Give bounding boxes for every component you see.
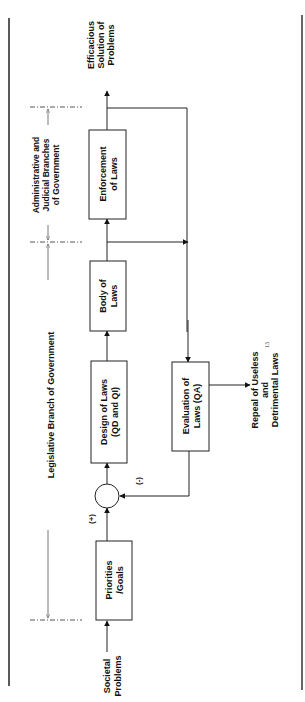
design-of-laws-label: Design of Laws (QD and QI) bbox=[99, 379, 120, 445]
evaluation-of-laws-label: Evaluation of Laws (QA) bbox=[181, 377, 202, 435]
svg-text:Design of Laws: Design of Laws bbox=[99, 379, 109, 445]
svg-text:(+): (+) bbox=[87, 514, 96, 524]
plus-sign: (+) bbox=[87, 514, 96, 524]
svg-text:Evaluation of: Evaluation of bbox=[181, 377, 191, 435]
minus-sign: (-) bbox=[134, 477, 143, 485]
svg-text:(QD and QI): (QD and QI) bbox=[110, 387, 120, 437]
law-system-diagram: Administrative and Judicial Branches of … bbox=[0, 0, 305, 702]
administrative-branch-label: Administrative and Judicial Branches of … bbox=[31, 137, 61, 214]
svg-text:Laws (QA): Laws (QA) bbox=[192, 384, 202, 429]
svg-text:of Laws: of Laws bbox=[109, 157, 119, 191]
svg-text:and: and bbox=[260, 382, 270, 398]
priorities-goals-label: Priorities /Goals bbox=[104, 560, 125, 599]
svg-text:Priorities: Priorities bbox=[104, 560, 114, 599]
svg-text:Societal: Societal bbox=[102, 659, 112, 694]
societal-problems-label: Societal Problems bbox=[102, 655, 123, 696]
svg-text:Repeal of Useless: Repeal of Useless bbox=[250, 351, 260, 428]
svg-text:13: 13 bbox=[264, 342, 270, 348]
svg-text:Solution of: Solution of bbox=[96, 21, 106, 69]
svg-text:Administrative and: Administrative and bbox=[31, 137, 41, 214]
priorities-goals-box bbox=[96, 541, 132, 620]
svg-text:Problems: Problems bbox=[106, 24, 116, 65]
svg-text:Enforcement: Enforcement bbox=[98, 146, 108, 201]
svg-text:Efficacious: Efficacious bbox=[86, 21, 96, 69]
svg-text:Problems: Problems bbox=[113, 655, 123, 696]
legislative-branch-label: Legislative Branch of Government bbox=[46, 332, 56, 479]
svg-text:Judicial Branches: Judicial Branches bbox=[41, 138, 51, 211]
svg-text:of Government: of Government bbox=[51, 145, 61, 206]
repeal-label: Repeal of Useless and Detrimental Laws bbox=[250, 351, 280, 428]
svg-text:/Goals: /Goals bbox=[115, 566, 125, 594]
repeal-footnote: 13 bbox=[264, 342, 270, 348]
feedback-line-evaluation bbox=[120, 451, 189, 496]
svg-text:Laws: Laws bbox=[109, 285, 119, 308]
body-of-laws-box bbox=[90, 261, 126, 331]
design-of-laws-box bbox=[91, 361, 127, 463]
svg-text:Legislative Branch of Governme: Legislative Branch of Government bbox=[46, 332, 56, 479]
summing-junction bbox=[95, 484, 119, 508]
efficacious-solution-label: Efficacious Solution of Problems bbox=[86, 21, 116, 69]
svg-text:(-): (-) bbox=[134, 477, 143, 485]
svg-text:Detrimental Laws: Detrimental Laws bbox=[270, 353, 280, 428]
svg-text:Body of: Body of bbox=[98, 278, 108, 312]
